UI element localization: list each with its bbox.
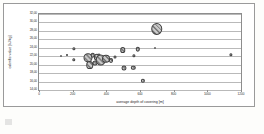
x-tick-label: 400	[104, 93, 109, 96]
gridline	[39, 48, 241, 49]
gridline	[39, 82, 241, 83]
y-tick-label: 30,00	[30, 21, 37, 24]
data-bubble	[102, 55, 110, 63]
y-tick-mark	[38, 14, 40, 15]
y-tick-mark	[38, 22, 40, 23]
y-tick-mark	[38, 48, 40, 49]
data-bubble	[154, 47, 156, 49]
data-bubble	[72, 47, 75, 50]
y-tick-mark	[38, 39, 40, 40]
y-tick-label: 22,00	[30, 55, 37, 58]
y-tick-label: 28,00	[30, 29, 37, 32]
y-tick-label: 16,00	[30, 80, 37, 83]
y-tick-mark	[38, 82, 40, 83]
page-artifact-smudge	[5, 119, 12, 125]
x-tick-label: 200	[70, 93, 75, 96]
gridline	[39, 56, 241, 57]
y-tick-mark	[38, 56, 40, 57]
x-tick-label: 1000	[204, 93, 211, 96]
y-tick-mark	[38, 65, 40, 66]
x-tick-label: 1200	[238, 93, 245, 96]
data-bubble	[60, 55, 62, 57]
plot-area: 14,0016,0018,0020,0022,0024,0026,0028,00…	[38, 13, 242, 91]
y-tick-mark	[38, 73, 40, 74]
y-tick-label: 24,00	[30, 46, 37, 49]
gridline	[39, 39, 241, 40]
x-tick-label: 0	[38, 93, 40, 96]
x-tick-label: 800	[171, 93, 176, 96]
y-tick-mark	[38, 31, 40, 32]
gridline	[39, 14, 241, 15]
gridline	[39, 22, 241, 23]
y-axis-title: calorific value [kJ/kg]	[8, 35, 12, 68]
y-tick-label: 32,00	[30, 12, 37, 15]
y-tick-label: 26,00	[30, 38, 37, 41]
data-bubble	[151, 23, 163, 35]
data-bubble	[109, 58, 113, 62]
y-tick-label: 14,00	[30, 88, 37, 91]
gridline	[39, 31, 241, 32]
y-tick-label: 18,00	[30, 71, 37, 74]
data-bubble	[136, 47, 140, 52]
data-bubble	[120, 47, 126, 53]
gridline	[39, 73, 241, 74]
figure-container: 14,0016,0018,0020,0022,0024,0026,0028,00…	[0, 0, 264, 134]
x-tick-label: 600	[137, 93, 142, 96]
data-bubble	[122, 65, 127, 70]
x-axis-title: average depth of covering [m]	[38, 100, 242, 104]
y-tick-label: 20,00	[30, 63, 37, 66]
data-bubble	[72, 58, 75, 62]
data-bubble	[114, 55, 117, 58]
gridline	[39, 65, 241, 66]
data-bubble	[131, 65, 135, 70]
